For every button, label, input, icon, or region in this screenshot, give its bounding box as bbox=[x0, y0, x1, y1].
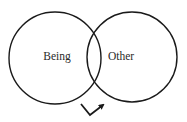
venn-diagram: Being Other bbox=[0, 0, 187, 122]
being-label: Being bbox=[43, 50, 71, 63]
checkmark-arrow-icon bbox=[81, 104, 103, 115]
other-label: Other bbox=[108, 50, 134, 62]
